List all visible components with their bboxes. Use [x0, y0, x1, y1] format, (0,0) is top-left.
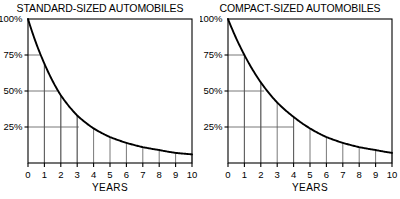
- chart-plot-compact: 25%50%75%100%012345678910YEARS: [200, 0, 400, 199]
- chart-panel-compact: COMPACT-SIZED AUTOMOBILES 25%50%75%100%0…: [200, 0, 400, 199]
- x-tick-label-4: 4: [91, 169, 96, 180]
- x-tick-label-6: 6: [324, 169, 329, 180]
- x-tick-label-3: 3: [275, 169, 280, 180]
- depreciation-curve: [28, 19, 192, 154]
- x-axis-title: YEARS: [92, 182, 128, 193]
- x-tick-label-8: 8: [357, 169, 362, 180]
- x-tick-label-4: 4: [291, 169, 296, 180]
- y-tick-label-50: 50%: [203, 85, 223, 96]
- x-tick-label-1: 1: [242, 169, 247, 180]
- x-tick-label-7: 7: [340, 169, 345, 180]
- y-tick-label-75: 75%: [3, 49, 23, 60]
- y-tick-label-100: 100%: [0, 13, 23, 24]
- x-tick-label-5: 5: [307, 169, 312, 180]
- x-tick-label-10: 10: [387, 169, 398, 180]
- x-tick-label-2: 2: [258, 169, 263, 180]
- chart-panel-standard: STANDARD-SIZED AUTOMOBILES 25%50%75%100%…: [0, 0, 200, 199]
- y-tick-label-50: 50%: [3, 85, 23, 96]
- x-tick-label-10: 10: [187, 169, 198, 180]
- y-tick-label-75: 75%: [203, 49, 223, 60]
- y-tick-label-100: 100%: [200, 13, 223, 24]
- x-tick-label-0: 0: [225, 169, 230, 180]
- x-axis-title: YEARS: [292, 182, 328, 193]
- x-tick-label-7: 7: [140, 169, 145, 180]
- y-tick-label-25: 25%: [3, 121, 23, 132]
- x-tick-label-0: 0: [25, 169, 30, 180]
- x-tick-label-8: 8: [157, 169, 162, 180]
- x-tick-label-9: 9: [373, 169, 378, 180]
- x-tick-label-6: 6: [124, 169, 129, 180]
- x-tick-label-3: 3: [75, 169, 80, 180]
- depreciation-figure: STANDARD-SIZED AUTOMOBILES 25%50%75%100%…: [0, 0, 400, 199]
- x-tick-label-1: 1: [42, 169, 47, 180]
- y-tick-label-25: 25%: [203, 121, 223, 132]
- x-tick-label-2: 2: [58, 169, 63, 180]
- x-tick-label-9: 9: [173, 169, 178, 180]
- x-tick-label-5: 5: [107, 169, 112, 180]
- chart-plot-standard: 25%50%75%100%012345678910YEARS: [0, 0, 200, 199]
